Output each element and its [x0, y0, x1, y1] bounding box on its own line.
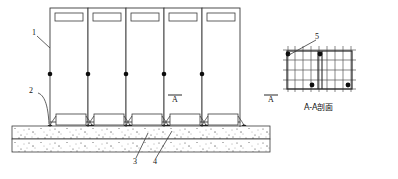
callout-2-leader: [38, 93, 49, 124]
panel-base-boxes: [56, 114, 238, 125]
section-marker-a-left: A: [172, 96, 178, 104]
elevation-view: [12, 8, 270, 152]
callout-1-leader: [37, 36, 50, 48]
section-title: A-A剖面: [304, 104, 333, 112]
callout-label-3: 3: [133, 158, 137, 166]
callout-label-1: 1: [32, 29, 36, 37]
callout-label-4: 4: [153, 158, 157, 166]
section-detail-view: [283, 40, 356, 92]
panel-bodies: [50, 8, 240, 122]
foundation-band-lower: [12, 139, 270, 152]
foundation-band-upper: [12, 126, 270, 139]
callout-label-2: 2: [29, 87, 33, 95]
callout-5-leader: [289, 40, 316, 55]
panel-window-openings: [55, 13, 235, 21]
callout-label-5: 5: [315, 33, 319, 41]
drawing-canvas: 1 2 3 4 5 A A A-A剖面: [0, 0, 398, 179]
technical-drawing-svg: [0, 0, 398, 179]
section-marker-a-right: A: [268, 96, 274, 104]
